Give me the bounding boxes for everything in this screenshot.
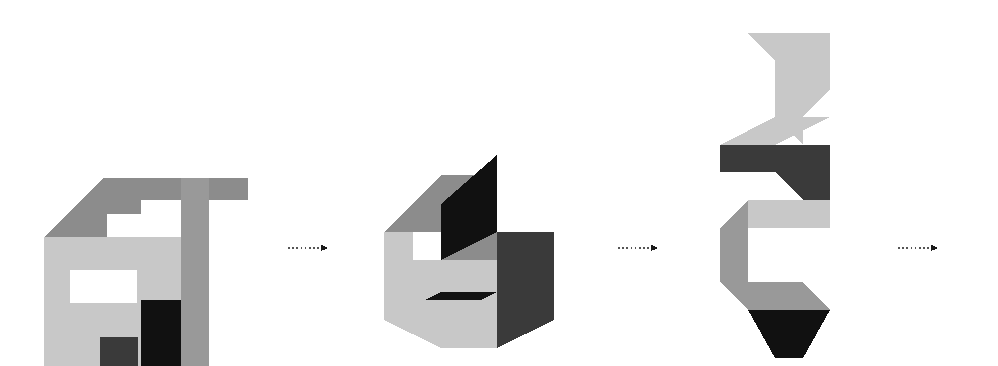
figure-3-mid-light bbox=[748, 200, 830, 228]
figure-sequence-canvas: Voxel Shape Rotation Sequence bbox=[0, 0, 998, 366]
figure-1-shadow-wedge bbox=[141, 300, 181, 366]
figure-2-left-front bbox=[384, 232, 413, 300]
figure-1-front-dark-tab bbox=[100, 337, 138, 366]
figure-1-front-notch bbox=[70, 270, 137, 303]
rotation-sequence-svg bbox=[0, 0, 998, 366]
figure-1-right-pillar bbox=[181, 200, 209, 300]
